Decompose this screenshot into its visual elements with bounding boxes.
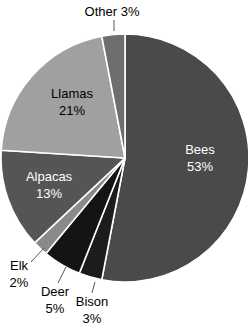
- label-other: Other 3%: [85, 4, 140, 19]
- label-deer-name: Deer: [41, 284, 70, 299]
- pie-chart-svg: Bees53%Bison3%Deer5%Elk2%Alpacas13%Llama…: [0, 0, 248, 325]
- label-alpacas-name: Alpacas: [26, 169, 73, 184]
- label-alpacas-percent: 13%: [36, 186, 62, 201]
- label-bison-percent: 3%: [83, 311, 102, 325]
- label-bison-name: Bison: [76, 294, 109, 309]
- label-bees-name: Bees: [185, 142, 215, 157]
- label-llamas-name: Llamas: [51, 86, 93, 101]
- leader-line-deer: [58, 267, 66, 283]
- leader-line-elk: [31, 248, 44, 262]
- label-elk-name: Elk: [10, 258, 29, 273]
- label-elk-percent: 2%: [10, 275, 29, 290]
- label-deer-percent: 5%: [46, 301, 65, 316]
- pie-chart: Bees53%Bison3%Deer5%Elk2%Alpacas13%Llama…: [0, 0, 248, 325]
- leader-line-bison: [92, 282, 95, 293]
- label-bees-percent: 53%: [187, 159, 213, 174]
- label-deer: Deer5%: [41, 284, 70, 316]
- label-elk: Elk2%: [10, 258, 29, 290]
- label-bison: Bison3%: [76, 294, 109, 325]
- label-llamas-percent: 21%: [59, 103, 85, 118]
